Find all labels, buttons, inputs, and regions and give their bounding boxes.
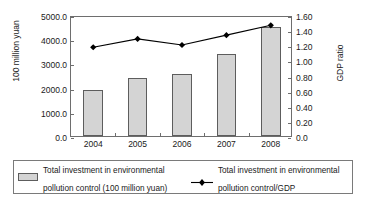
x-axis-tick-label: 2008 <box>261 140 280 149</box>
y-axis-right-tick-mark <box>288 138 291 139</box>
y-axis-left-tick-mark <box>71 138 74 139</box>
plot-area: 0.01000.02000.03000.04000.05000.0 0.00.2… <box>70 16 292 137</box>
line-series-markers <box>90 22 274 50</box>
line-diamond-swatch-icon <box>191 173 213 182</box>
x-axis-tick-label: 2006 <box>173 140 192 149</box>
y-axis-right-tick-label: 0.20 <box>296 118 313 127</box>
legend-bar-label-line2: pollution control (100 million yuan) <box>43 184 167 193</box>
x-axis-tick-label: 2004 <box>84 140 103 149</box>
legend-line-label-line1: Total investment in environmental <box>218 166 340 175</box>
legend-entry-bar-label: Total investment in environmental pollut… <box>43 159 167 195</box>
y-axis-left-tick-label: 4000.0 <box>41 37 67 46</box>
y-axis-right-tick-label: 1.60 <box>296 13 313 22</box>
x-axis-tick-label: 2005 <box>128 140 147 149</box>
legend-entry-line-label: Total investment in environmental pollut… <box>218 159 340 195</box>
chart-legend: Total investment in environmental pollut… <box>13 160 353 194</box>
y-axis-left-tick-label: 0.0 <box>55 134 67 143</box>
line-series-marker <box>179 42 185 48</box>
y-axis-left-tick-label: 2000.0 <box>41 85 67 94</box>
y-axis-right-tick-label: 1.00 <box>296 58 313 67</box>
line-series-marker <box>90 44 96 50</box>
chart-figure: 100 million yuan GDP ratio 0.01000.02000… <box>0 0 366 207</box>
legend-entry-line-series: Total investment in environmental pollut… <box>191 159 348 195</box>
legend-line-label-line2: pollution control/GDP <box>218 184 295 193</box>
legend-entry-bar-series: Total investment in environmental pollut… <box>18 159 191 195</box>
y-axis-right-tick-label: 0.60 <box>296 88 313 97</box>
y-axis-right-tick-label: 1.20 <box>296 43 313 52</box>
line-diamond-icon <box>191 178 213 187</box>
legend-bar-label-line1: Total investment in environmental <box>43 166 165 175</box>
y-axis-right-tick-label: 0.0 <box>296 134 308 143</box>
line-series <box>71 17 293 138</box>
x-axis-tick-label: 2007 <box>217 140 236 149</box>
y-axis-right-tick-label: 0.40 <box>296 103 313 112</box>
line-series-marker <box>135 36 141 42</box>
y-axis-right-tick-label: 0.80 <box>296 73 313 82</box>
y-axis-right-tick-label: 1.40 <box>296 28 313 37</box>
y-axis-left-tick-label: 1000.0 <box>41 109 67 118</box>
y-axis-left-tick-label: 3000.0 <box>41 61 67 70</box>
line-series-marker <box>268 22 274 28</box>
bar-swatch-icon <box>18 173 38 181</box>
y-axis-right-title: GDP ratio <box>335 31 345 95</box>
line-series-marker <box>223 32 229 38</box>
y-axis-left-tick-label: 5000.0 <box>41 13 67 22</box>
y-axis-left-title: 100 million yuan <box>11 3 21 99</box>
